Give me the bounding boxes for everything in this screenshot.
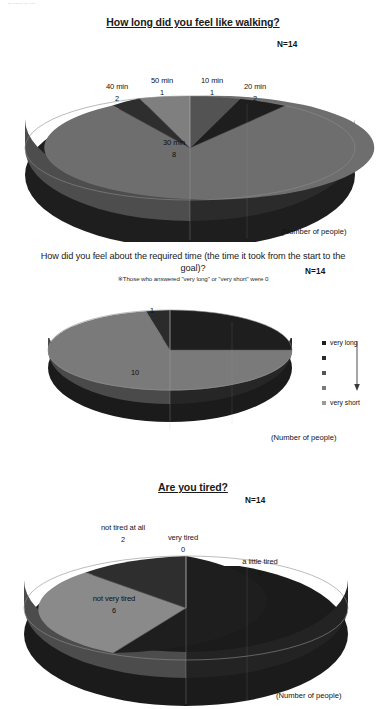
chart-2-note: ※Those who answered "very long" or "very… — [0, 275, 386, 282]
chart-3-n-label: N=14 — [245, 496, 266, 505]
chart-3-title: Are you tired? — [0, 481, 386, 493]
chart-2-n-label: N=14 — [305, 267, 326, 276]
chart-3-pie-svg — [0, 506, 386, 706]
legend-swatch-icon — [322, 401, 326, 405]
page-top-cut-text: -- ----- -- --- — [8, 0, 128, 7]
chart-2-footer-label: (Number of people) — [271, 433, 336, 442]
chart-required-time: How did you feel about the required time… — [0, 250, 386, 282]
chart-1-pie — [0, 42, 386, 242]
chart-1-footer-label: (Number of people) — [281, 227, 346, 236]
chart-2-legend: very long very short — [322, 335, 360, 410]
chart-walking-time: How long did you feel like walking? N=14 — [0, 16, 386, 28]
legend-item-very-short[interactable]: very short — [322, 395, 360, 410]
legend-swatch-icon — [322, 341, 326, 345]
chart-1-title: How long did you feel like walking? — [0, 16, 386, 28]
chart-tiredness: Are you tired? N=14 — [0, 481, 386, 493]
legend-swatch-icon — [322, 386, 326, 390]
legend-swatch-icon — [322, 356, 326, 360]
legend-down-arrow-icon — [352, 341, 362, 393]
legend-label-very-short: very short — [330, 399, 360, 406]
chart-3-footer-label: (Number of people) — [276, 691, 341, 700]
chart-3-pie — [0, 506, 386, 706]
chart-2-title: How did you feel about the required time… — [0, 250, 386, 274]
legend-swatch-icon — [322, 371, 326, 375]
chart-1-pie-svg — [0, 42, 386, 242]
